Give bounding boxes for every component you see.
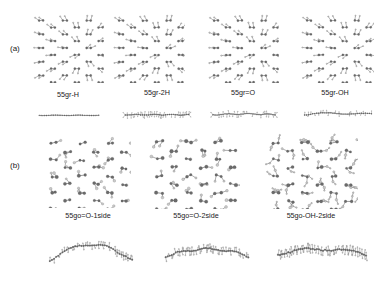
structure-side-view-55gr-2H [120, 100, 194, 128]
structure-side-view-55gr-O [208, 100, 280, 128]
structure-label-55go-OH-2side: 55go-OH-2side [287, 211, 336, 220]
structure-side-view-55go-O-2side [160, 230, 254, 268]
structure-label-55gr-OH: 55gr-OH [321, 88, 349, 97]
structure-top-view-55gr-H [32, 11, 104, 83]
structure-label-55gr-O: 55gr=O [231, 88, 255, 97]
panel-label-a: (a) [10, 44, 20, 53]
structure-top-view-55go-OH-2side [262, 133, 358, 209]
structure-label-55gr-2H: 55gr-2H [144, 88, 170, 97]
structure-top-view-55gr-O [207, 11, 279, 83]
structure-top-view-55go-O-1side [43, 134, 131, 208]
structure-side-view-55gr-H [36, 104, 102, 126]
structure-side-view-55gr-OH [299, 101, 377, 127]
structure-top-view-55gr-2H [111, 11, 185, 83]
structure-side-view-55go-OH-2side [272, 228, 372, 272]
structure-label-55go-O-1side: 55go=O-1side [65, 211, 110, 220]
panel-label-b: (b) [10, 161, 20, 170]
structure-top-view-55go-O-2side [148, 132, 240, 209]
figure-canvas: (a) (b) 55gr-H 55gr-2H 55gr=O 55gr-OH 55… [0, 0, 392, 281]
structure-label-55gr-H: 55gr-H [57, 90, 79, 99]
structure-label-55go-O-2side: 55go=O-2side [173, 211, 218, 220]
structure-top-view-55gr-OH [298, 11, 374, 83]
structure-side-view-55go-O-1side [44, 226, 138, 270]
